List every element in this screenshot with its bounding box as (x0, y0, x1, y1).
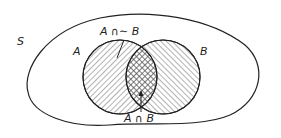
a-minus-b-label: A ∩∼ B (99, 25, 139, 38)
set-b-label: B (200, 45, 208, 58)
venn-diagram: S A B A ∩∼ B A ∩ B (0, 0, 281, 138)
a-and-b-label: A ∩ B (123, 112, 154, 125)
universe-label: S (17, 35, 24, 48)
set-a-label: A (72, 45, 81, 58)
